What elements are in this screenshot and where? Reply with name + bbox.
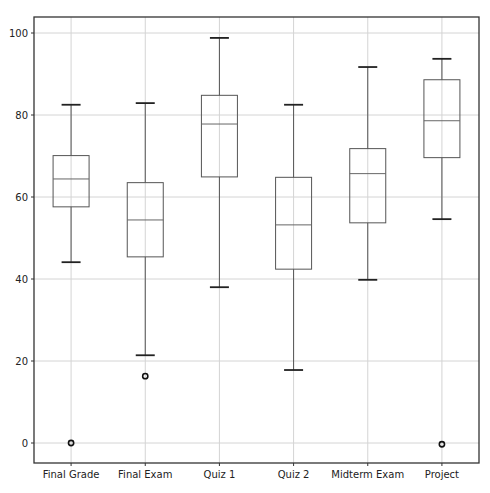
x-tick-label: Project <box>425 469 459 480</box>
y-tick-label: 100 <box>9 28 28 39</box>
x-tick-label: Quiz 1 <box>204 469 236 480</box>
grid-lines <box>34 17 479 463</box>
boxes <box>53 38 460 447</box>
x-axis: Final GradeFinal ExamQuiz 1Quiz 2Midterm… <box>43 463 459 480</box>
y-tick-label: 40 <box>15 274 28 285</box>
y-tick-label: 0 <box>22 438 28 449</box>
box-plot-chart: 020406080100 Final GradeFinal ExamQuiz 1… <box>0 0 490 493</box>
y-tick-label: 20 <box>15 356 28 367</box>
x-tick-label: Final Grade <box>43 469 100 480</box>
box-midterm-exam <box>350 67 386 280</box>
y-tick-label: 80 <box>15 110 28 121</box>
x-tick-label: Quiz 2 <box>278 469 310 480</box>
y-axis: 020406080100 <box>9 28 34 449</box>
plot-frame <box>34 17 479 463</box>
y-tick-label: 60 <box>15 192 28 203</box>
x-tick-label: Final Exam <box>118 469 172 480</box>
x-tick-label: Midterm Exam <box>331 469 404 480</box>
